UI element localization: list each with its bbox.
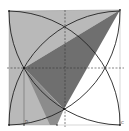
point-bottom-foot bbox=[23, 124, 25, 126]
point-left-intersection bbox=[23, 67, 25, 69]
point-top-right bbox=[119, 9, 121, 11]
label-bottom-right: C bbox=[121, 120, 124, 125]
point-bottom-left bbox=[8, 124, 10, 126]
point-bottom-mid bbox=[56, 124, 58, 126]
label-bottom-mid: D bbox=[25, 119, 28, 124]
point-bottom-intersection bbox=[63, 108, 65, 110]
point-top-left bbox=[8, 10, 10, 12]
geometry-diagram: D C bbox=[0, 0, 129, 131]
